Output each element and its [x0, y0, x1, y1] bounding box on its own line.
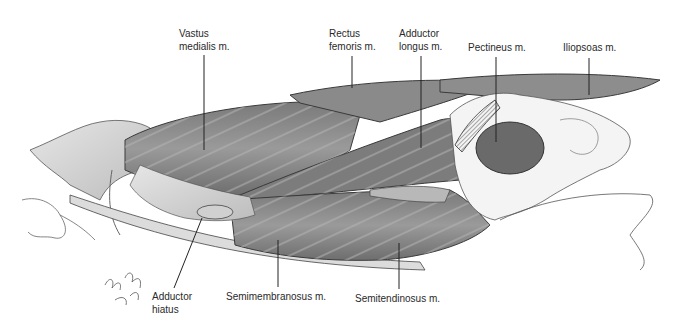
- iliopsoas-shape: [440, 74, 660, 100]
- label-vastus-medialis: Vastus medialis m.: [179, 28, 230, 53]
- label-semitendinosus: Semitendinosus m.: [355, 293, 440, 306]
- label-pectineus: Pectineus m.: [468, 42, 526, 55]
- label-adductor-longus: Adductor longus m.: [399, 28, 442, 53]
- anatomy-figure: Vastus medialis m. Rectus femoris m. Add…: [0, 0, 673, 332]
- label-adductor-hiatus: Adductor hiatus: [152, 291, 192, 316]
- label-iliopsoas: Iliopsoas m.: [563, 42, 616, 55]
- label-semimembranosus: Semimembranosus m.: [226, 291, 326, 304]
- pectineus-shape: [476, 122, 544, 174]
- artist-signature: [105, 273, 141, 305]
- label-rectus-femoris: Rectus femoris m.: [329, 28, 376, 53]
